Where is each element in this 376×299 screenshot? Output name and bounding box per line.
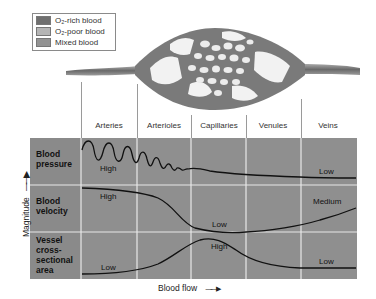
column-divider	[301, 99, 302, 138]
row-label-line: pressure	[36, 159, 72, 169]
column-header-venules: Venules	[246, 121, 300, 130]
pressure-low-label: Low	[319, 167, 334, 176]
pressure-high-label: High	[100, 164, 116, 173]
magnitude-grid: Blood pressure Blood velocity Vessel cro…	[30, 138, 357, 279]
magnitude-arrow-icon: ——▶	[21, 173, 31, 191]
row-label-line: sectional	[36, 255, 73, 265]
column-header-arterioles: Arterioles	[137, 121, 191, 130]
magnitude-label: Magnitude	[21, 197, 31, 237]
row-label-line: Vessel	[36, 235, 73, 245]
row-label-line: area	[36, 265, 73, 275]
row-label-line: Blood	[36, 196, 68, 206]
grid-lines-and-curves	[30, 138, 357, 279]
area-low-label: Low	[101, 263, 116, 272]
column-header-capillaries: Capillaries	[192, 121, 246, 130]
row-label-line: cross-	[36, 245, 73, 255]
x-axis-label: Blood flow ——▶	[158, 283, 219, 293]
row-label-blood-pressure: Blood pressure	[36, 149, 72, 169]
velocity-high-label: High	[100, 192, 116, 201]
row-label-line: Blood	[36, 149, 72, 159]
velocity-low-label: Low	[212, 220, 227, 229]
row-label-line: velocity	[36, 206, 68, 216]
row-label-vessel-area: Vessel cross- sectional area	[36, 235, 73, 275]
capillary-bed-illustration	[0, 0, 376, 120]
y-axis-label: Magnitude ——▶	[21, 173, 31, 237]
blood-flow-arrow-icon: ——▶	[206, 285, 219, 292]
blood-flow-label: Blood flow	[158, 283, 197, 293]
area-low-right-label: Low	[319, 257, 334, 266]
row-label-blood-velocity: Blood velocity	[36, 196, 68, 216]
area-high-label: High	[211, 242, 227, 251]
column-header-arteries: Arteries	[82, 121, 136, 130]
velocity-medium-label: Medium	[313, 197, 341, 206]
column-header-veins: Veins	[301, 121, 355, 130]
